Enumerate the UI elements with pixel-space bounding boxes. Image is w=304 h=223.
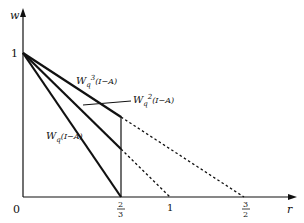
dashed-wq2 xyxy=(121,149,170,197)
leader-line-wq2 xyxy=(83,101,131,105)
line-wq1 xyxy=(23,53,121,197)
y-tick-label-1: 1 xyxy=(11,47,18,60)
tick-numerator: 2 xyxy=(118,200,123,209)
origin-label: 0 xyxy=(13,203,20,216)
x-tick-one: 1 xyxy=(167,202,173,213)
tick-numerator: 3 xyxy=(243,200,248,209)
x-tick-two-thirds: 2 3 xyxy=(117,200,125,219)
x-tick-three-halves: 3 2 xyxy=(242,200,250,219)
y-axis-label: w xyxy=(10,9,20,22)
solid-lines xyxy=(23,53,121,197)
dashed-wq3 xyxy=(121,117,244,197)
label-wq3: Wq3(I−A) xyxy=(76,74,117,89)
diagram-canvas: w r 0 1 2 3 1 3 2 Wq3(I−A) Wq2(I−A) Wq(I… xyxy=(0,0,304,223)
tick-denominator: 3 xyxy=(118,210,123,219)
dashed-lines xyxy=(121,117,244,197)
label-wq2: Wq2(I−A) xyxy=(133,93,174,108)
label-wq1: Wq(I−A) xyxy=(46,130,83,144)
x-axis-label: r xyxy=(287,203,293,216)
x-axis-arrow-icon xyxy=(288,194,297,200)
tick-denominator: 2 xyxy=(243,210,248,219)
y-axis-arrow-icon xyxy=(20,8,26,17)
